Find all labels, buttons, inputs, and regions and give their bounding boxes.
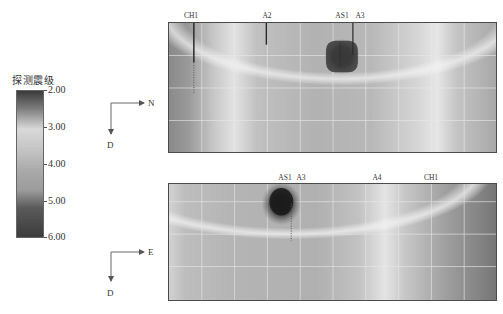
well-label: A3 xyxy=(296,173,305,182)
well-label: A4 xyxy=(372,173,381,182)
axis-label-horizontal: N xyxy=(148,98,155,108)
well-label: AS1 xyxy=(278,173,291,182)
colorbar-tick xyxy=(44,90,47,91)
colorbar-label: 3.00 xyxy=(48,122,66,132)
well-label: A3 xyxy=(355,11,364,20)
colorbar xyxy=(16,90,44,238)
section-panel-east xyxy=(168,183,497,301)
axis-label-vertical: D xyxy=(107,288,114,298)
colorbar-tick xyxy=(44,201,47,202)
event-cluster-core xyxy=(269,188,293,216)
colorbar-tick xyxy=(44,127,47,128)
colorbar-label: 4.00 xyxy=(48,159,66,169)
well-label: CH1 xyxy=(424,173,438,182)
colorbar-label: 6.00 xyxy=(48,232,66,242)
colorbar-tick xyxy=(44,164,47,165)
well-label: A2 xyxy=(262,11,271,20)
axis-label-vertical: D xyxy=(107,140,114,150)
well-label: CH1 xyxy=(184,11,198,20)
section-panel-north xyxy=(168,22,497,153)
colorbar-tick xyxy=(44,237,47,238)
colorbar-label: 2.00 xyxy=(48,85,66,95)
well-label: AS1 xyxy=(335,11,348,20)
colorbar-label: 5.00 xyxy=(48,196,66,206)
axis-label-horizontal: E xyxy=(148,247,154,257)
